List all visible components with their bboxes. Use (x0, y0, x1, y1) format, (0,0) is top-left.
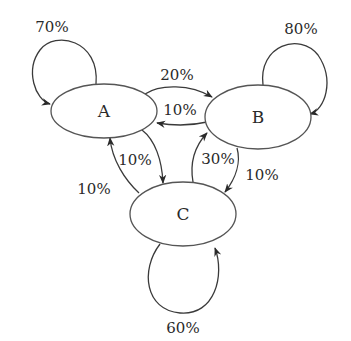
markov-diagram: A B C 70% 80% 60% 20% 10% 10% 10% 30% 10… (0, 0, 351, 341)
label-a-to-c: 10% (118, 151, 151, 169)
label-a-to-b: 20% (160, 66, 193, 84)
node-b-label: B (252, 107, 265, 127)
edge-c-to-c (148, 244, 218, 313)
edge-a-to-b (145, 87, 212, 97)
label-b-to-b: 80% (284, 20, 317, 38)
label-b-to-c: 10% (245, 166, 278, 184)
node-a-label: A (97, 101, 111, 121)
label-b-to-a: 10% (163, 101, 196, 119)
label-a-to-a: 70% (35, 18, 68, 36)
label-c-to-a: 10% (77, 180, 110, 198)
edge-b-to-a (157, 122, 207, 125)
label-c-to-c: 60% (166, 319, 199, 337)
label-c-to-b: 30% (201, 150, 234, 168)
node-c-label: C (176, 204, 189, 224)
